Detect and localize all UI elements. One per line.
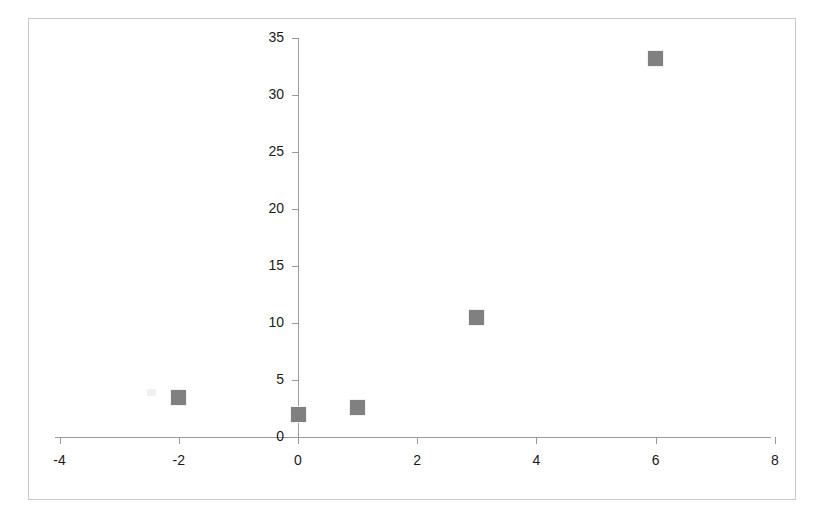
y-axis-tick	[292, 209, 299, 210]
x-axis-tick	[775, 437, 776, 444]
x-axis-tick-label: 8	[745, 452, 805, 468]
y-axis-tick-label: 5	[240, 371, 284, 387]
image-artifact	[147, 389, 156, 396]
chart-screenshot: -4-202468 05101520253035	[0, 0, 819, 517]
y-axis-line	[298, 38, 299, 438]
x-axis-tick-label: -2	[149, 452, 209, 468]
y-axis-tick-label: 30	[240, 86, 284, 102]
y-axis-tick	[292, 323, 299, 324]
data-point-marker	[647, 50, 664, 67]
x-axis-tick	[179, 437, 180, 444]
x-axis-tick-label: 6	[626, 452, 686, 468]
x-axis-tick	[536, 437, 537, 444]
y-axis-tick-label: 15	[240, 257, 284, 273]
x-axis-tick-label: 4	[506, 452, 566, 468]
y-axis-tick	[292, 95, 299, 96]
plot-canvas: -4-202468 05101520253035	[0, 0, 819, 517]
y-axis-tick-label: 25	[240, 143, 284, 159]
data-point-marker	[349, 399, 366, 416]
y-axis-tick	[292, 152, 299, 153]
data-point-marker	[468, 309, 485, 326]
data-point-marker	[170, 389, 187, 406]
y-axis-tick-label: 0	[240, 428, 284, 444]
x-axis-tick-label: 2	[387, 452, 447, 468]
y-axis-tick	[292, 380, 299, 381]
x-axis-tick	[417, 437, 418, 444]
x-axis-tick-label: -4	[30, 452, 90, 468]
y-axis-tick-label: 10	[240, 314, 284, 330]
x-axis-line	[55, 437, 771, 438]
y-axis-tick-label: 35	[240, 29, 284, 45]
x-axis-tick-label: 0	[268, 452, 328, 468]
data-point-marker	[290, 406, 307, 423]
x-axis-tick	[60, 437, 61, 444]
y-axis-tick	[292, 266, 299, 267]
y-axis-tick	[292, 38, 299, 39]
x-axis-tick	[656, 437, 657, 444]
y-axis-tick-label: 20	[240, 200, 284, 216]
x-axis-tick	[298, 437, 299, 444]
